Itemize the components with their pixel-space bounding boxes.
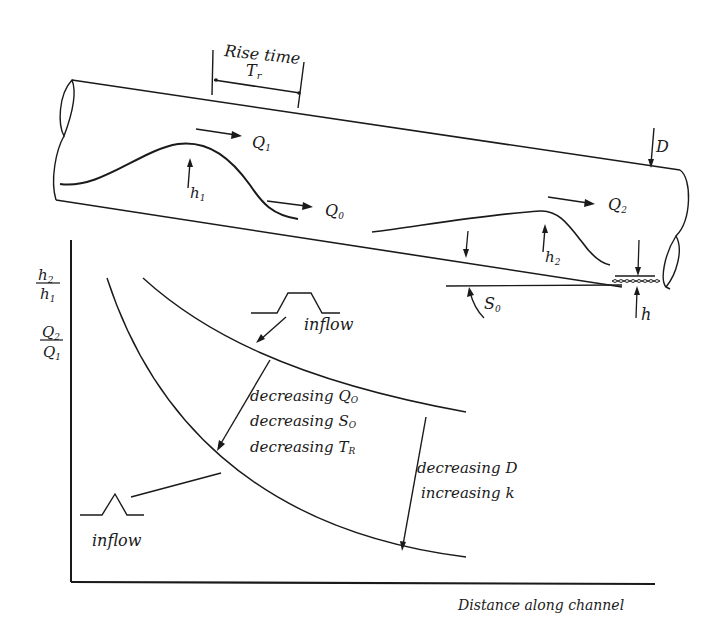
horizontal-reference-line xyxy=(446,285,622,286)
q1-arrow-icon xyxy=(196,129,242,139)
diameter-arrow-icon xyxy=(648,128,654,168)
h2-label: h2 xyxy=(545,248,561,267)
downstream-wave xyxy=(372,211,610,265)
rise-time-symbol: Tr xyxy=(246,61,263,81)
wide-inflow-hydrograph-icon xyxy=(251,293,340,313)
roughness-arrow-down-icon xyxy=(635,240,641,276)
h1-label: h1 xyxy=(190,184,205,203)
narrow-inflow-label: inflow xyxy=(92,531,142,550)
annotation-decreasing-tr: decreasing TR xyxy=(250,438,355,456)
wide-inflow-pointer-arrow-icon xyxy=(256,317,286,343)
slope-label: S0 xyxy=(484,294,501,314)
y-axis-label-flow-ratio: Q2 Q1 xyxy=(40,323,63,362)
x-axis xyxy=(71,582,655,584)
pipe-left-end-lower xyxy=(54,136,64,200)
pipe-right-end xyxy=(663,236,679,287)
q2-arrow-icon xyxy=(548,197,595,207)
response-plot: h2 h1 Q2 Q1 inflow inflow decreasing QO xyxy=(36,240,655,613)
svg-text:Q2: Q2 xyxy=(42,323,60,342)
q2-label: Q2 xyxy=(608,195,627,215)
annotation-decreasing-qo: decreasing QO xyxy=(250,387,359,405)
q0-label: Q0 xyxy=(325,201,344,221)
q0-arrow-icon xyxy=(267,201,313,210)
wide-inflow-label: inflow xyxy=(304,315,354,334)
upstream-wave xyxy=(60,143,298,219)
svg-text:h1: h1 xyxy=(40,285,55,304)
svg-text:h2: h2 xyxy=(38,266,54,285)
narrow-inflow-pointer-line xyxy=(131,473,221,497)
narrow-inflow-hydrograph-icon xyxy=(80,494,144,515)
pipe-left-end xyxy=(60,80,74,136)
svg-text:Q1: Q1 xyxy=(43,343,61,362)
wave-attenuation-diagram: Rise time Tr Q1 h1 Q0 Q2 xyxy=(0,0,714,630)
rise-time-label: Rise time xyxy=(223,41,302,68)
pipe: Rise time Tr Q1 h1 Q0 Q2 xyxy=(54,41,689,324)
x-axis-label: Distance along channel xyxy=(457,597,624,613)
roughness-arrow-up-icon xyxy=(634,286,640,318)
annotation-decreasing-d: decreasing D xyxy=(417,459,517,477)
roughness-layer xyxy=(612,276,660,283)
roughness-height-label: h xyxy=(641,305,651,324)
slope-up-arrow-icon xyxy=(467,287,484,318)
q1-label: Q1 xyxy=(252,133,271,153)
pipe-right-end-upper xyxy=(676,170,689,236)
annotation-decreasing-so: decreasing SO xyxy=(250,412,357,430)
y-axis-label-depth-ratio: h2 h1 xyxy=(36,266,60,304)
annotation-increasing-k: increasing k xyxy=(421,484,514,502)
diameter-label: D xyxy=(655,137,669,156)
slope-down-arrow-icon xyxy=(463,231,469,258)
pipe-top-edge xyxy=(72,80,680,170)
